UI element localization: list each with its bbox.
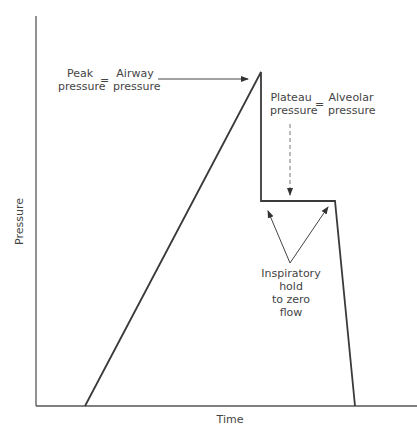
inspiratory-hold-label: Inspiratory hold to zero flow: [258, 267, 324, 319]
x-axis-label: Time: [210, 413, 250, 426]
hold-arrow-left: [268, 211, 290, 263]
alveolar-pressure-label: Alveolar pressure: [328, 91, 374, 117]
pressure-time-diagram: [0, 0, 417, 439]
y-axis-label: Pressure: [13, 197, 26, 247]
pressure-waveform: [85, 72, 355, 406]
peak-equals: =: [100, 74, 109, 87]
peak-pressure-label: Peak pressure: [58, 67, 102, 93]
airway-pressure-label: Airway pressure: [113, 67, 157, 93]
plateau-pressure-label: Plateau pressure: [270, 91, 312, 117]
plateau-equals: =: [315, 98, 324, 111]
hold-arrow-right: [290, 207, 328, 263]
